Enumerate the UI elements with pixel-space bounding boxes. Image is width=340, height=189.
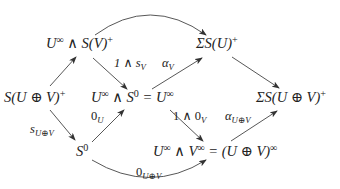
label-sub: V <box>201 115 206 125</box>
node-text: U <box>153 143 163 159</box>
node-text: ΣS(U ⊕ V) <box>256 89 320 105</box>
label-alpha-v: αV <box>162 57 174 70</box>
node-sup: ∞ <box>270 142 277 153</box>
label-text: 1 ∧ s <box>114 56 141 70</box>
node-sup: ∞ <box>56 34 63 45</box>
node-text: = U <box>139 89 167 105</box>
node-u-inf-wedge-s0: U∞ ∧ S0 = U∞ <box>91 90 174 105</box>
node-sup: ∞ <box>166 88 173 99</box>
arrow-n1-n2-curved <box>95 15 206 35</box>
node-sup: ∞ <box>163 142 170 153</box>
label-sub: V <box>141 62 146 72</box>
label-sub: U <box>97 115 103 125</box>
node-text: = (U ⊕ V) <box>205 143 270 159</box>
label-sub: V <box>169 62 174 72</box>
label-sub: U⊕V <box>142 171 161 181</box>
label-text: 1 ∧ 0 <box>173 109 201 123</box>
node-text: U <box>91 89 101 105</box>
node-sup: + <box>232 34 238 45</box>
node-u-inf-wedge-v-inf: U∞ ∧ V∞ = (U ⊕ V)∞ <box>153 144 277 159</box>
node-s-u-plus-v: S(U ⊕ V)+ <box>4 90 65 105</box>
node-sup: ∞ <box>197 142 204 153</box>
node-sup: 0 <box>134 88 139 99</box>
label-text: α <box>225 109 232 123</box>
arrow-n2-n5 <box>232 57 279 88</box>
node-text: S(U ⊕ V) <box>4 89 60 105</box>
node-sup: ∞ <box>101 88 108 99</box>
node-sup: + <box>320 88 326 99</box>
node-sup: + <box>60 88 66 99</box>
node-sigma-s-u-plus-v: ΣS(U ⊕ V)+ <box>256 90 326 105</box>
node-text: ΣS(U) <box>196 35 232 51</box>
label-1-wedge-sv: 1 ∧ sV <box>114 57 146 70</box>
arrow-n3-n1 <box>50 57 76 86</box>
node-text: ∧ S(V) <box>64 35 108 51</box>
node-sup: 0 <box>83 142 88 153</box>
label-1-wedge-0v: 1 ∧ 0V <box>173 110 206 123</box>
node-u-inf-wedge-sv: U∞ ∧ S(V)+ <box>46 36 113 51</box>
label-0-u: 0U <box>91 110 104 123</box>
node-text: ∧ S <box>109 89 134 105</box>
label-text: α <box>162 56 169 70</box>
node-sup: + <box>107 34 113 45</box>
node-sigma-su: ΣS(U)+ <box>196 36 238 51</box>
label-0-u-plus-v: 0U⊕V <box>136 166 161 179</box>
node-text: U <box>46 35 56 51</box>
label-alpha-u-plus-v: αU⊕V <box>225 110 251 123</box>
label-sub: U⊕V <box>35 128 54 138</box>
node-s0: S0 <box>76 144 88 159</box>
node-text: ∧ V <box>171 143 198 159</box>
arrow-n4-n2 <box>152 58 202 89</box>
label-s-u-plus-v: sU⊕V <box>30 123 54 136</box>
label-sub: U⊕V <box>232 115 251 125</box>
